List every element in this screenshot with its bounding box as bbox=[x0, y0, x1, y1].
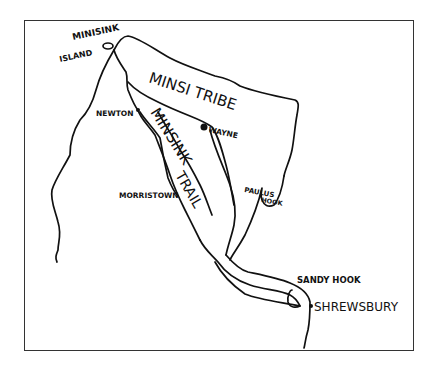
shrewsbury-label: SHREWSBURY bbox=[314, 300, 399, 314]
trail-label-1: MINSINK bbox=[147, 105, 197, 169]
minisink-island-shape bbox=[103, 43, 113, 49]
newton-label: NEWTON bbox=[96, 109, 133, 118]
trail-label-2: TRAIL bbox=[172, 168, 206, 211]
island-label: ISLAND bbox=[59, 48, 94, 64]
morristown-label: MORRISTOWN bbox=[119, 191, 179, 200]
river-west-line bbox=[52, 50, 114, 262]
shrewsbury-dot bbox=[309, 304, 313, 308]
minisink-label: MINISINK bbox=[71, 22, 121, 42]
minsi-boundary-north bbox=[114, 36, 298, 176]
river-lower bbox=[200, 240, 300, 307]
wayne-dot bbox=[201, 124, 208, 131]
map-drawing: MINISINK ISLAND MINSI TRIBE NEWTON WAYNE… bbox=[0, 0, 441, 372]
newton-dot bbox=[136, 108, 140, 112]
sandy-hook-label: SANDY HOOK bbox=[297, 275, 361, 285]
